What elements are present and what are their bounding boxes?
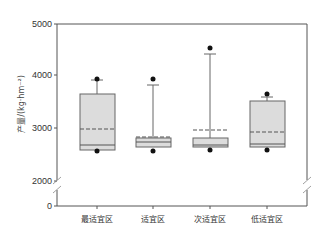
y-tick-2000: 2000 [32, 176, 52, 186]
outlier-low [208, 148, 213, 153]
box-low-suitable [250, 92, 285, 153]
outlier-low [95, 149, 100, 154]
x-label-suitable: 适宜区 [141, 214, 165, 224]
box-plot-chart: 5000 4000 3000 2000 0 产量/(kg·hm⁻²) 最适宜区 … [0, 0, 327, 238]
outlier-high [151, 77, 156, 82]
x-label-low-suitable: 低适宜区 [251, 214, 283, 224]
x-label-sub-suitable: 次适宜区 [194, 214, 226, 224]
y-tick-3000: 3000 [32, 123, 52, 133]
outlier-low [151, 149, 156, 154]
outlier-low [265, 148, 270, 153]
x-label-best: 最适宜区 [81, 214, 113, 224]
y-tick-0: 0 [47, 201, 52, 211]
outlier-high [265, 92, 270, 97]
outlier-high [95, 77, 100, 82]
y-tick-4000: 4000 [32, 70, 52, 80]
outlier-high [208, 46, 213, 51]
box-suitable [136, 77, 171, 154]
y-axis-label: 产量/(kg·hm⁻²) [16, 75, 26, 132]
y-tick-5000: 5000 [32, 19, 52, 29]
x-axis-tick-labels: 最适宜区 适宜区 次适宜区 低适宜区 [81, 214, 283, 224]
y-axis-tick-labels: 5000 4000 3000 2000 0 [32, 19, 52, 211]
box-sub-suitable [193, 46, 228, 153]
box-best [80, 77, 115, 154]
axis-break-marks [53, 177, 311, 193]
